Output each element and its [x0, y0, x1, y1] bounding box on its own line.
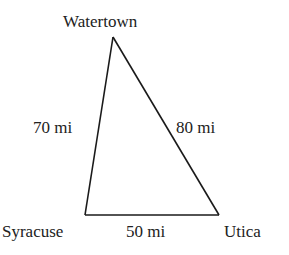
edge-watertown-syracuse: [85, 37, 113, 215]
city-label-utica: Utica: [224, 222, 261, 242]
edge-label-watertown-syracuse: 70 mi: [33, 118, 72, 138]
city-label-watertown: Watertown: [63, 12, 137, 32]
edge-label-watertown-utica: 80 mi: [176, 118, 215, 138]
city-label-syracuse: Syracuse: [2, 222, 63, 242]
triangle-diagram: Watertown 70 mi 80 mi Syracuse 50 mi Uti…: [0, 0, 289, 255]
edge-label-syracuse-utica: 50 mi: [126, 222, 165, 242]
